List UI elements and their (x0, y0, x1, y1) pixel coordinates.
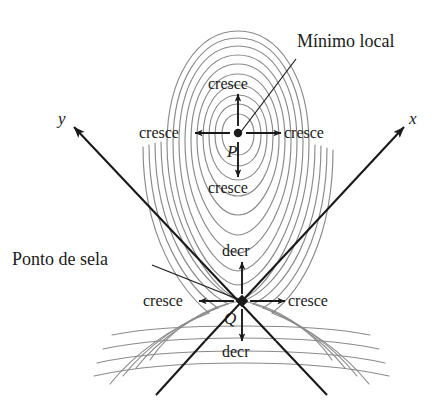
diagram-canvas (0, 0, 435, 419)
arrow-label-min-up: cresce (208, 76, 248, 92)
axis-label-y: y (58, 110, 66, 127)
arrow-label-saddle-left: cresce (143, 293, 183, 309)
callout-minimo-local: Mínimo local (297, 32, 395, 50)
contour-diagram-figure: Mínimo local Ponto de sela y x P Q cresc… (0, 0, 435, 419)
callout-ponto-de-sela: Ponto de sela (12, 250, 108, 268)
point-label-p: P (227, 143, 237, 160)
x-axis-extension (156, 341, 205, 395)
point-label-q: Q (224, 310, 236, 327)
minimum-point-marker (234, 129, 242, 137)
y-axis-extension (276, 341, 327, 395)
arrow-label-saddle-up: decr (222, 243, 250, 259)
arrow-label-min-down: cresce (208, 180, 248, 196)
arrow-label-min-right: cresce (284, 125, 324, 141)
arrow-label-saddle-down: decr (222, 344, 250, 360)
leader-line-minimum (240, 59, 296, 133)
arrow-label-saddle-right: cresce (288, 293, 328, 309)
arrow-label-min-left: cresce (139, 125, 179, 141)
axis-label-x: x (409, 110, 417, 127)
